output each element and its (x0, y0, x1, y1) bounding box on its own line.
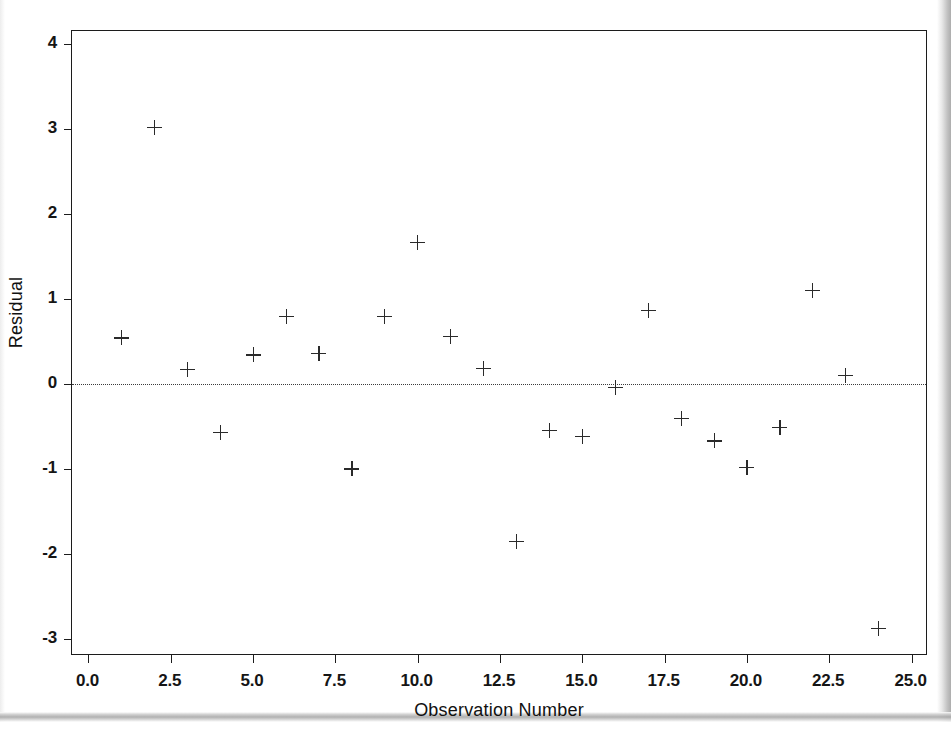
y-axis-tick-labels: -3-2-101234 (0, 30, 57, 655)
data-point (641, 303, 656, 318)
data-point (246, 347, 261, 362)
data-point (213, 425, 228, 440)
x-axis-tick (88, 654, 89, 663)
x-axis-tick (171, 654, 172, 663)
x-axis-tick (912, 654, 913, 663)
y-axis-tick-label: 3 (48, 118, 57, 138)
x-axis-tick (829, 654, 830, 663)
y-axis-tick-label: 4 (48, 33, 57, 53)
data-point (311, 346, 326, 361)
y-axis-tick (64, 469, 72, 470)
data-point (871, 621, 886, 636)
x-axis-tick-label: 17.5 (647, 671, 679, 691)
y-axis-tick-label: 1 (48, 288, 57, 308)
y-axis-tick-label: -3 (42, 628, 57, 648)
data-point (707, 433, 722, 448)
data-point (377, 309, 392, 324)
data-point (739, 460, 754, 475)
x-axis-tick-label: 15.0 (565, 671, 597, 691)
x-axis-tick (665, 654, 666, 663)
x-axis-tick-label: 25.0 (894, 671, 926, 691)
x-axis-tick (418, 654, 419, 663)
x-axis-tick-label: 5.0 (241, 671, 264, 691)
x-axis-tick-label: 7.5 (323, 671, 346, 691)
x-axis-tick (335, 654, 336, 663)
x-axis-tick-label: 12.5 (483, 671, 515, 691)
data-point (674, 411, 689, 426)
x-axis-title: Observation Number (71, 700, 927, 721)
x-axis-tick-label: 2.5 (158, 671, 181, 691)
y-axis-tick (64, 554, 72, 555)
x-axis-tick-label: 20.0 (730, 671, 762, 691)
y-axis-tick-label: -2 (42, 543, 57, 563)
scanned-page: Residual -3-2-101234 0.02.55.07.510.012.… (0, 0, 951, 738)
data-point (279, 309, 294, 324)
zero-reference-line (72, 384, 926, 385)
data-point (443, 329, 458, 344)
y-axis-tick-label: 0 (48, 373, 57, 393)
x-axis-tick-labels: 0.02.55.07.510.012.515.017.520.022.525.0 (71, 671, 927, 695)
x-axis-tick-label: 0.0 (76, 671, 99, 691)
y-axis-tick (64, 44, 72, 45)
y-axis-tick-label: 2 (48, 203, 57, 223)
x-axis-tick (253, 654, 254, 663)
data-point (147, 120, 162, 135)
data-point (344, 461, 359, 476)
data-point (509, 534, 524, 549)
data-point (608, 380, 623, 395)
y-axis-tick (64, 384, 72, 385)
data-point (180, 362, 195, 377)
data-point (114, 330, 129, 345)
y-axis-tick (64, 214, 72, 215)
data-point (476, 361, 491, 376)
x-axis-tick (747, 654, 748, 663)
data-point (410, 235, 425, 250)
plot-area (72, 31, 926, 654)
data-point (805, 283, 820, 298)
plot-frame (71, 30, 927, 655)
data-point (838, 368, 853, 383)
x-axis-tick (500, 654, 501, 663)
y-axis-tick (64, 299, 72, 300)
data-point (772, 420, 787, 435)
y-axis-tick-label: -1 (42, 458, 57, 478)
x-axis-tick (582, 654, 583, 663)
y-axis-tick (64, 129, 72, 130)
data-point (575, 429, 590, 444)
y-axis-tick (64, 639, 72, 640)
data-point (542, 423, 557, 438)
scan-edge-right (937, 0, 951, 722)
x-axis-tick-label: 22.5 (812, 671, 844, 691)
x-axis-tick-label: 10.0 (401, 671, 433, 691)
